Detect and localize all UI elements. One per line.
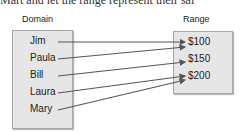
arrow-paula-100 bbox=[58, 47, 185, 59]
mapping-arrows bbox=[0, 0, 248, 131]
arrow-bill-150 bbox=[58, 62, 185, 76]
